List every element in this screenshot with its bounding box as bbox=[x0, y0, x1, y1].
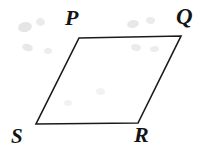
parallelogram-outline bbox=[36, 36, 181, 124]
geometry-figure: P Q R S bbox=[0, 0, 206, 151]
vertex-label-r: R bbox=[134, 124, 149, 146]
vertex-label-p: P bbox=[65, 7, 78, 29]
vertex-label-s: S bbox=[11, 126, 23, 147]
vertex-label-q: Q bbox=[176, 5, 193, 28]
